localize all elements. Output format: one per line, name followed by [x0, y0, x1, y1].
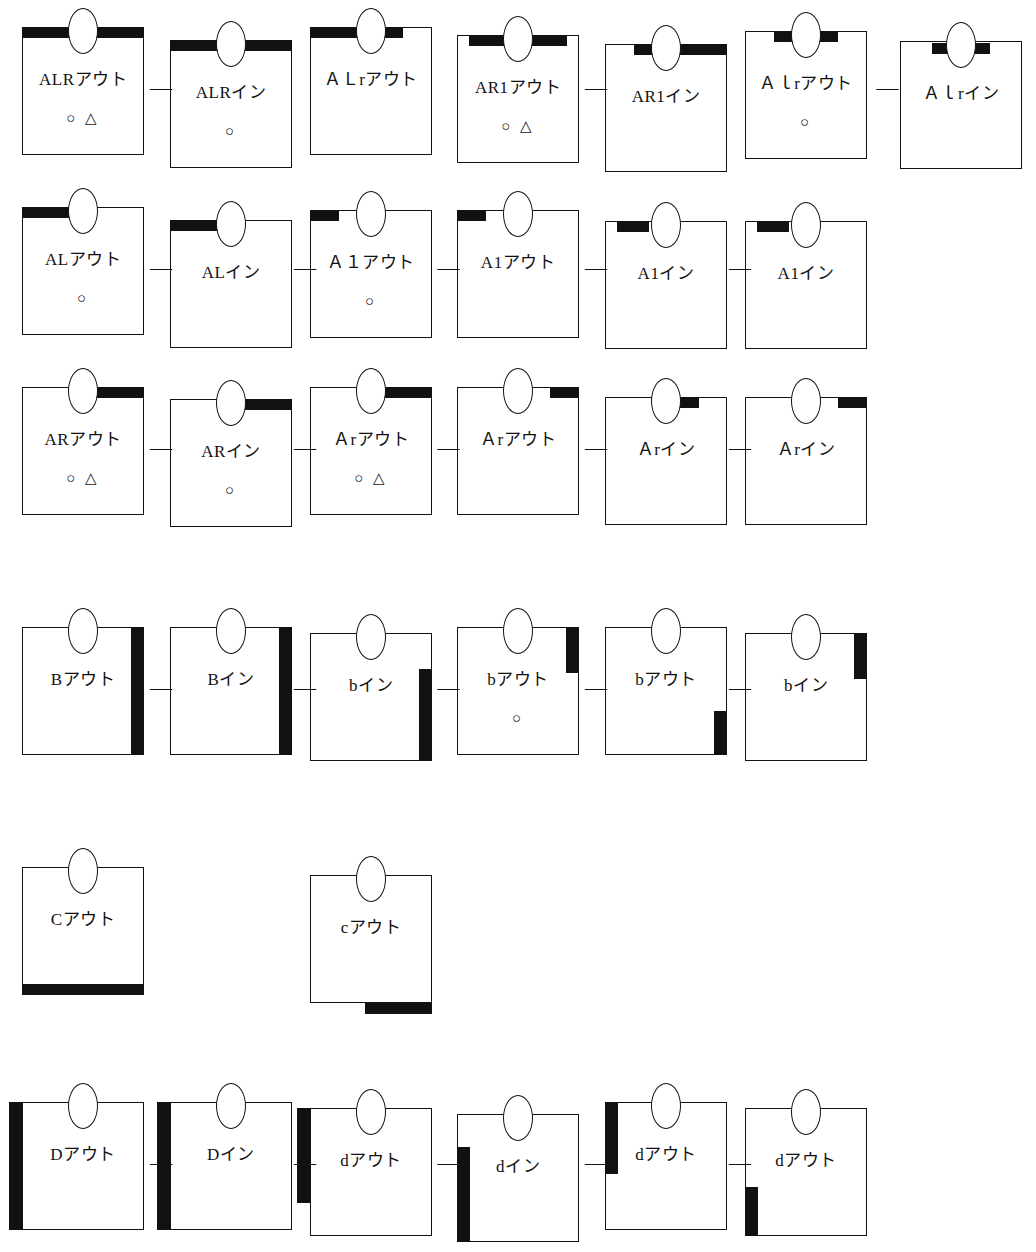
- diagram-cell: AR1イン: [605, 44, 727, 172]
- diagram-cell: A1イン: [745, 221, 867, 349]
- subtraction-separator: —: [150, 257, 172, 279]
- cell-black-bar: [550, 387, 579, 398]
- diagram-canvas: ALRアウト○ △ALRイン○ＡＬrアウトAR1アウト○ △AR1インＡｌrアウ…: [0, 0, 1036, 1252]
- cell-label: dアウト: [310, 1152, 432, 1169]
- subtraction-separator: —: [877, 77, 899, 99]
- cell-label: bイン: [310, 677, 432, 694]
- cell-oval-marker: [68, 368, 98, 414]
- cell-label: cアウト: [310, 919, 432, 936]
- diagram-cell: Ａrアウト: [457, 387, 579, 515]
- diagram-cell: bアウト○: [457, 627, 579, 755]
- diagram-cell: dイン: [457, 1114, 579, 1242]
- cell-oval-marker: [356, 1089, 386, 1135]
- cell-oval-marker: [356, 191, 386, 237]
- diagram-cell: bイン: [745, 633, 867, 761]
- cell-oval-marker: [216, 608, 246, 654]
- diagram-cell: Dイン: [170, 1102, 292, 1230]
- cell-label: Bアウト: [22, 671, 144, 688]
- subtraction-separator: —: [150, 437, 172, 459]
- cell-black-bar: [854, 633, 867, 679]
- cell-shape-markers: ○ △: [22, 471, 144, 486]
- cell-label: Ａrアウト: [310, 431, 432, 448]
- diagram-cell: dアウト: [310, 1108, 432, 1236]
- cell-label: Ａｌrイン: [900, 85, 1022, 102]
- cell-black-bar: [838, 397, 867, 408]
- cell-black-bar: [310, 210, 339, 221]
- cell-oval-marker: [791, 12, 821, 58]
- cell-black-bar: [617, 221, 649, 232]
- cell-oval-marker: [68, 188, 98, 234]
- subtraction-separator: —: [585, 677, 607, 699]
- cell-oval-marker: [68, 848, 98, 894]
- cell-oval-marker: [503, 608, 533, 654]
- cell-shape-markers: ○: [170, 483, 292, 498]
- subtraction-separator: —: [729, 437, 751, 459]
- diagram-cell: Bイン: [170, 627, 292, 755]
- diagram-cell: Ａｌrアウト○: [745, 31, 867, 159]
- cell-label: ＡＬrアウト: [310, 71, 432, 88]
- diagram-cell: dアウト: [745, 1108, 867, 1236]
- cell-oval-marker: [216, 380, 246, 426]
- cell-label: ALRアウト: [22, 71, 144, 88]
- cell-label: ALイン: [170, 264, 292, 281]
- diagram-cell: ALRイン○: [170, 40, 292, 168]
- diagram-cell: ALアウト○: [22, 207, 144, 335]
- cell-black-bar: [365, 1003, 432, 1014]
- cell-label: A1アウト: [457, 254, 579, 271]
- subtraction-separator: —: [438, 1152, 460, 1174]
- diagram-cell: Bアウト: [22, 627, 144, 755]
- cell-shape-markers: ○: [22, 291, 144, 306]
- subtraction-separator: —: [150, 77, 172, 99]
- cell-black-bar: [745, 1187, 758, 1236]
- cell-oval-marker: [356, 368, 386, 414]
- cell-label: Ａ１アウト: [310, 254, 432, 271]
- cell-oval-marker: [503, 16, 533, 62]
- cell-oval-marker: [503, 1095, 533, 1141]
- cell-oval-marker: [791, 1089, 821, 1135]
- subtraction-separator: —: [438, 257, 460, 279]
- diagram-cell: ALイン: [170, 220, 292, 348]
- subtraction-separator: —: [294, 1152, 316, 1174]
- cell-black-bar: [566, 627, 579, 673]
- subtraction-separator: —: [729, 677, 751, 699]
- cell-oval-marker: [356, 8, 386, 54]
- cell-oval-marker: [651, 1083, 681, 1129]
- cell-black-bar: [22, 984, 144, 995]
- diagram-cell: Ａrアウト○ △: [310, 387, 432, 515]
- cell-label: bアウト: [457, 671, 579, 688]
- cell-label: Ａrアウト: [457, 431, 579, 448]
- cell-oval-marker: [356, 614, 386, 660]
- cell-label: Dイン: [170, 1146, 292, 1163]
- cell-label: dアウト: [745, 1152, 867, 1169]
- cell-black-bar: [9, 1102, 22, 1230]
- cell-oval-marker: [651, 378, 681, 424]
- cell-oval-marker: [946, 22, 976, 68]
- cell-shape-markers: ○: [457, 711, 579, 726]
- cell-label: ALアウト: [22, 251, 144, 268]
- diagram-cell: ALRアウト○ △: [22, 27, 144, 155]
- cell-shape-markers: ○ △: [457, 119, 579, 134]
- subtraction-separator: —: [585, 437, 607, 459]
- cell-oval-marker: [68, 1083, 98, 1129]
- cell-label: Ａrイン: [745, 441, 867, 458]
- diagram-cell: AR1アウト○ △: [457, 35, 579, 163]
- cell-label: ARイン: [170, 443, 292, 460]
- subtraction-separator: —: [585, 257, 607, 279]
- cell-oval-marker: [651, 25, 681, 71]
- subtraction-separator: —: [294, 257, 316, 279]
- cell-black-bar: [457, 210, 486, 221]
- cell-oval-marker: [503, 191, 533, 237]
- diagram-cell: Cアウト: [22, 867, 144, 995]
- cell-oval-marker: [503, 368, 533, 414]
- cell-oval-marker: [791, 378, 821, 424]
- subtraction-separator: —: [294, 437, 316, 459]
- diagram-cell: cアウト: [310, 875, 432, 1003]
- cell-oval-marker: [356, 856, 386, 902]
- diagram-cell: Ａrイン: [605, 397, 727, 525]
- diagram-cell: A1イン: [605, 221, 727, 349]
- cell-oval-marker: [216, 1083, 246, 1129]
- cell-oval-marker: [791, 202, 821, 248]
- cell-label: Ａrイン: [605, 441, 727, 458]
- diagram-cell: ARイン○: [170, 399, 292, 527]
- subtraction-separator: —: [585, 1152, 607, 1174]
